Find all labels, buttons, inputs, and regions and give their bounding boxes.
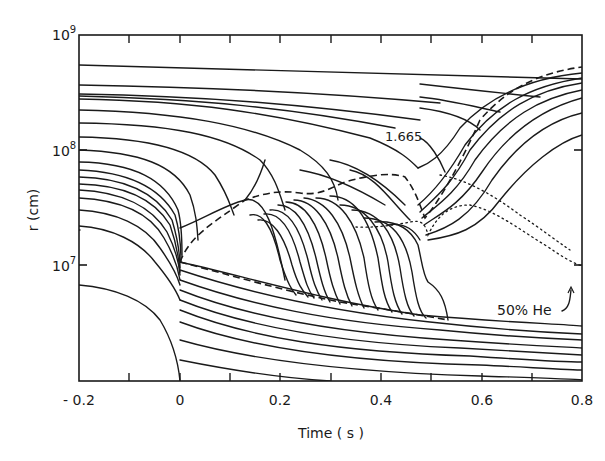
y-tick-labels: 109 108 107 (52, 24, 76, 274)
shell-label-1665: 1.665 (385, 129, 422, 144)
shell-label-leader (420, 138, 445, 172)
svg-text:0.6: 0.6 (471, 392, 493, 408)
svg-text:0.2: 0.2 (269, 392, 291, 408)
svg-text:0.8: 0.8 (571, 392, 593, 408)
he-arrow (562, 290, 571, 311)
x-tick-labels: - 0.2 0 0.2 0.4 0.6 0.8 (63, 392, 593, 408)
x-axis-title: Time ( s ) (297, 425, 364, 441)
y-tick-1e9: 109 (52, 24, 76, 43)
y-axis-title: r (cm) (25, 189, 41, 231)
y-tick-1e8: 108 (52, 140, 76, 159)
he-label: 50% He (497, 302, 552, 318)
svg-text:0: 0 (176, 392, 185, 408)
svg-text:0.4: 0.4 (370, 392, 392, 408)
svg-text:- 0.2: - 0.2 (63, 392, 95, 408)
y-tick-1e7: 107 (52, 255, 76, 274)
chart: - 0.2 0 0.2 0.4 0.6 0.8 109 108 107 Time… (0, 0, 605, 461)
solid-mass-shells (57, 65, 582, 381)
